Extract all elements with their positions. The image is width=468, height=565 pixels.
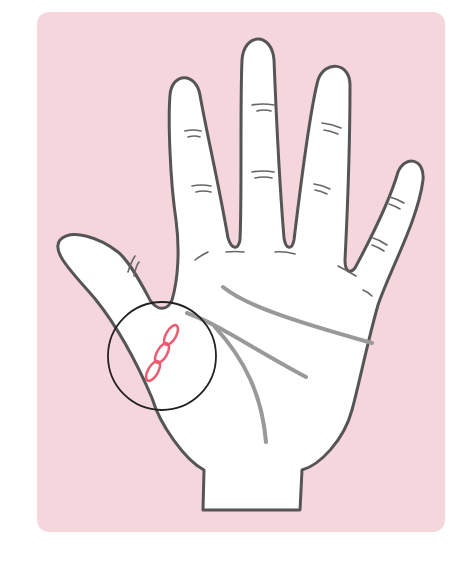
hand-illustration — [0, 0, 468, 565]
hand-outline — [58, 39, 423, 510]
